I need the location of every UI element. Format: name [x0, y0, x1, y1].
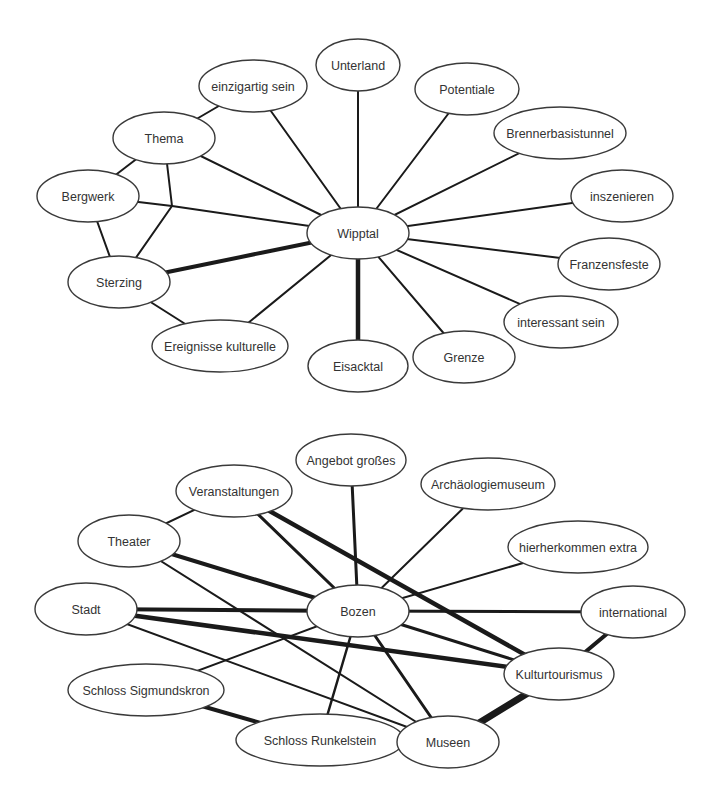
- edge-veranstaltungen-kultur: [234, 491, 559, 674]
- node-eisacktal: Eisacktal: [308, 340, 408, 392]
- node-unterland: Unterland: [316, 39, 400, 91]
- node-runkelstein: Schloss Runkelstein: [236, 714, 404, 766]
- node-museen: Museen: [397, 716, 499, 768]
- node-ereignisse: Ereignisse kulturelle: [152, 320, 288, 372]
- node-potentiale: Potentiale: [415, 63, 519, 115]
- node-stadt: Stadt: [35, 583, 137, 635]
- node-bergwerk: Bergwerk: [37, 170, 139, 222]
- node-franzensfeste: Franzensfeste: [558, 238, 660, 290]
- node-label: Unterland: [331, 59, 385, 73]
- bozen-nodes: Angebot großesVeranstaltungenArchäologie…: [35, 434, 685, 768]
- node-wipptal: Wipptal: [307, 207, 409, 259]
- node-label: Schloss Sigmundskron: [82, 684, 209, 698]
- node-label: interessant sein: [517, 316, 605, 330]
- node-international: international: [581, 586, 685, 638]
- node-label: Schloss Runkelstein: [264, 734, 377, 748]
- node-label: Wipptal: [337, 227, 379, 241]
- node-label: Thema: [145, 132, 184, 146]
- node-theater: Theater: [78, 515, 180, 567]
- network-diagram-canvas: Unterlandeinzigartig seinPotentialeThema…: [0, 0, 718, 800]
- node-label: Sterzing: [96, 276, 142, 290]
- node-interessant: interessant sein: [504, 296, 618, 348]
- node-veranstaltungen: Veranstaltungen: [176, 465, 292, 517]
- node-einzigartig: einzigartig sein: [199, 60, 307, 112]
- node-label: Grenze: [444, 351, 485, 365]
- node-sigmundskron: Schloss Sigmundskron: [68, 664, 224, 716]
- node-sterzing: Sterzing: [68, 256, 170, 308]
- node-label: Brennerbasistunnel: [506, 127, 614, 141]
- node-label: Eisacktal: [333, 360, 383, 374]
- node-angebot: Angebot großes: [296, 434, 406, 486]
- wipptal-network: Unterlandeinzigartig seinPotentialeThema…: [37, 39, 673, 392]
- node-label: Ereignisse kulturelle: [164, 340, 276, 354]
- node-label: international: [599, 606, 667, 620]
- node-label: Franzensfeste: [569, 258, 648, 272]
- node-label: Archäologiemuseum: [431, 478, 545, 492]
- node-grenze: Grenze: [413, 331, 515, 383]
- node-label: Theater: [107, 535, 150, 549]
- wipptal-nodes: Unterlandeinzigartig seinPotentialeThema…: [37, 39, 673, 392]
- node-label: Stadt: [71, 603, 101, 617]
- node-label: hierherkommen extra: [519, 541, 637, 555]
- node-inszenieren: inszenieren: [571, 170, 673, 222]
- node-label: inszenieren: [590, 190, 654, 204]
- node-brenner: Brennerbasistunnel: [494, 107, 626, 159]
- node-label: Kulturtourismus: [516, 668, 603, 682]
- node-thema: Thema: [113, 112, 215, 164]
- node-hierher: hierherkommen extra: [508, 521, 648, 573]
- node-label: Bergwerk: [62, 190, 116, 204]
- node-label: einzigartig sein: [211, 80, 294, 94]
- node-bozen: Bozen: [307, 585, 409, 637]
- bozen-network: Angebot großesVeranstaltungenArchäologie…: [35, 434, 685, 768]
- node-kultur: Kulturtourismus: [504, 648, 614, 700]
- node-label: Veranstaltungen: [189, 485, 279, 499]
- node-label: Potentiale: [439, 83, 495, 97]
- node-label: Bozen: [340, 605, 375, 619]
- node-label: Angebot großes: [307, 454, 396, 468]
- node-label: Museen: [426, 736, 471, 750]
- node-archaeologie: Archäologiemuseum: [421, 458, 555, 510]
